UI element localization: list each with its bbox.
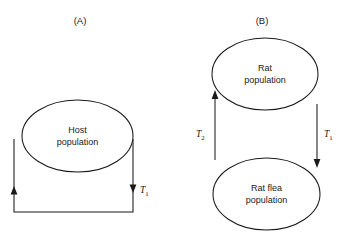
node-host-population-line2: population [57, 137, 99, 147]
panel-b-flow-label-t1-subscript: 1 [329, 134, 332, 141]
panel-b-flow-label-t2: T2 [196, 129, 205, 141]
node-host-population [22, 100, 133, 172]
panel-a: (A) Host population T1 [11, 15, 149, 212]
panel-b-flow-label-t2-subscript: 2 [201, 134, 205, 141]
transmission-cycle-diagram: (A) Host population T1 (B) Rat populatio… [0, 0, 341, 242]
svg-text:T1: T1 [324, 129, 333, 141]
node-rat-population-line2: population [244, 75, 286, 85]
panel-b-arrowhead-down-icon [314, 159, 321, 168]
panel-a-caption: (A) [74, 15, 87, 26]
panel-b-caption: (B) [256, 15, 269, 26]
panel-a-arrowhead-down-icon [130, 185, 137, 194]
node-host-population-line1: Host [68, 125, 87, 135]
svg-text:T2: T2 [196, 129, 205, 141]
panel-a-flow-label-t1: T1 [140, 185, 149, 197]
panel-b: (B) Rat population Rat flea population T… [196, 15, 333, 230]
node-rat-population-line1: Rat [258, 63, 273, 73]
node-rat-flea-population [213, 158, 320, 230]
panel-b-flow-label-t1: T1 [324, 129, 333, 141]
node-rat-flea-population-line1: Rat flea [251, 183, 282, 193]
panel-b-arrowhead-up-icon [212, 90, 219, 99]
panel-a-flow-label-t1-subscript: 1 [145, 190, 148, 197]
svg-text:T1: T1 [140, 185, 149, 197]
node-rat-population [212, 38, 318, 110]
node-rat-flea-population-line2: population [246, 195, 288, 205]
panel-a-arrowhead-up-icon [11, 186, 18, 195]
